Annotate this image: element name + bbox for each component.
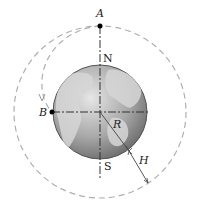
point-b	[50, 110, 55, 115]
label-b: B	[38, 106, 47, 119]
label-h: H	[138, 154, 149, 167]
point-a	[98, 24, 103, 29]
label-r: R	[112, 118, 121, 131]
label-s: S	[104, 160, 112, 173]
label-n: N	[103, 52, 113, 65]
orbit-diagram: A N B R S H	[0, 0, 198, 208]
label-a: A	[95, 7, 104, 20]
